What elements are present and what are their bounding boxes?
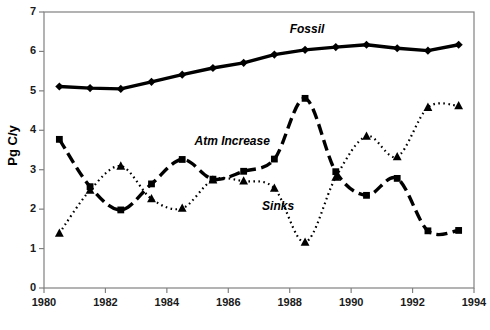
data-point-marker [148, 181, 155, 188]
x-axis-tick-label: 1984 [150, 296, 184, 308]
data-point-marker [270, 50, 278, 58]
data-point-marker [455, 227, 462, 234]
data-point-marker [301, 46, 309, 54]
y-axis-tick-label: 1 [18, 242, 36, 254]
data-point-marker [394, 175, 401, 182]
data-point-marker [363, 192, 370, 199]
data-point-marker [362, 41, 370, 49]
data-point-marker [424, 103, 433, 111]
data-point-marker [239, 176, 248, 184]
data-point-marker [178, 204, 187, 212]
series-line-sinks [59, 103, 458, 242]
x-axis-tick-label: 1988 [273, 296, 307, 308]
x-axis-tick-label: 1980 [27, 296, 61, 308]
x-axis-tick-label: 1990 [334, 296, 368, 308]
data-point-marker [117, 85, 125, 93]
data-point-marker [332, 43, 340, 51]
data-point-marker [147, 194, 156, 202]
x-axis-tick-label: 1992 [396, 296, 430, 308]
data-point-marker [117, 207, 124, 214]
data-point-marker [56, 136, 63, 143]
chart-plot-area [0, 0, 490, 330]
x-axis-tick-label: 1982 [88, 296, 122, 308]
y-axis-tick-label: 6 [18, 44, 36, 56]
data-point-marker [455, 41, 463, 49]
data-point-marker [362, 131, 371, 139]
x-axis-tick-label: 1986 [211, 296, 245, 308]
data-point-marker [425, 227, 432, 234]
data-point-marker [178, 71, 186, 79]
series-annotation-atm-increase: Atm Increase [195, 134, 270, 148]
data-point-marker [301, 237, 310, 245]
data-point-marker [393, 44, 401, 52]
x-axis-tick-label: 1994 [457, 296, 490, 308]
data-point-marker [271, 156, 278, 163]
data-point-marker [55, 82, 63, 90]
data-point-marker [179, 156, 186, 163]
data-point-marker [55, 228, 64, 236]
series-line-fossil [59, 45, 458, 89]
data-point-marker [302, 95, 309, 102]
plot-frame [44, 12, 474, 288]
data-point-marker [147, 78, 155, 86]
data-point-marker [86, 84, 94, 92]
data-point-marker [424, 47, 432, 55]
y-axis-tick-label: 5 [18, 84, 36, 96]
y-axis-tick-label: 2 [18, 202, 36, 214]
y-axis-tick-label: 4 [18, 123, 36, 135]
y-axis-tick-label: 3 [18, 163, 36, 175]
data-point-marker [209, 64, 217, 72]
data-point-marker [240, 168, 247, 175]
data-point-marker [454, 101, 463, 109]
data-point-marker [240, 59, 248, 67]
chart-container: Pg C/y 198019821984198619881990199219940… [0, 0, 490, 330]
data-point-marker [270, 183, 279, 191]
y-axis-tick-label: 0 [18, 281, 36, 293]
y-axis-tick-label: 7 [18, 5, 36, 17]
series-annotation-sinks: Sinks [262, 199, 294, 213]
series-annotation-fossil: Fossil [290, 22, 325, 36]
